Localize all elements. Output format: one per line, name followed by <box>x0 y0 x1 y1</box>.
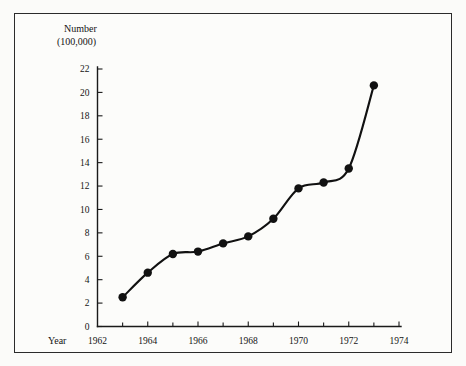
y-axis-title-line1: Number <box>64 23 97 34</box>
x-tick-label: 1974 <box>390 336 409 346</box>
data-point-marker <box>294 184 302 192</box>
chart-axes <box>98 67 402 327</box>
data-point-marker <box>269 215 277 223</box>
data-series-line <box>123 85 374 297</box>
x-axis-ticks: 1962196419661968197019721974 <box>88 322 409 346</box>
y-tick-label: 6 <box>85 252 90 262</box>
data-point-marker <box>370 81 378 89</box>
y-tick-label: 18 <box>80 111 90 121</box>
y-tick-label: 16 <box>80 135 90 145</box>
y-tick-label: 4 <box>85 275 90 285</box>
data-point-markers <box>118 81 378 301</box>
y-tick-label: 0 <box>85 322 90 332</box>
data-point-marker <box>219 239 227 247</box>
x-axis-title: Year <box>48 335 67 346</box>
x-tick-label: 1962 <box>88 336 107 346</box>
y-tick-label: 12 <box>80 181 90 191</box>
x-tick-label: 1972 <box>339 336 358 346</box>
y-tick-label: 2 <box>85 298 90 308</box>
data-point-marker <box>118 293 126 301</box>
x-tick-label: 1968 <box>239 336 258 346</box>
data-point-marker <box>345 164 353 172</box>
y-axis-title: Number (100,000) <box>57 23 97 48</box>
y-axis-title-line2: (100,000) <box>57 36 96 48</box>
y-axis-ticks: 0246810121416182022 <box>80 64 103 332</box>
x-tick-label: 1966 <box>189 336 208 346</box>
y-tick-label: 14 <box>80 158 90 168</box>
y-tick-label: 20 <box>80 88 90 98</box>
data-point-marker <box>144 268 152 276</box>
y-tick-label: 8 <box>85 228 90 238</box>
x-tick-label: 1970 <box>289 336 308 346</box>
data-point-marker <box>319 178 327 186</box>
y-tick-label: 22 <box>80 64 90 74</box>
data-point-marker <box>169 250 177 258</box>
figure-container: 0246810121416182022 19621964196619681970… <box>0 0 466 366</box>
data-point-marker <box>194 247 202 255</box>
x-tick-label: 1964 <box>138 336 157 346</box>
y-tick-label: 10 <box>80 205 90 215</box>
data-point-marker <box>244 232 252 240</box>
line-chart: 0246810121416182022 19621964196619681970… <box>0 0 466 366</box>
